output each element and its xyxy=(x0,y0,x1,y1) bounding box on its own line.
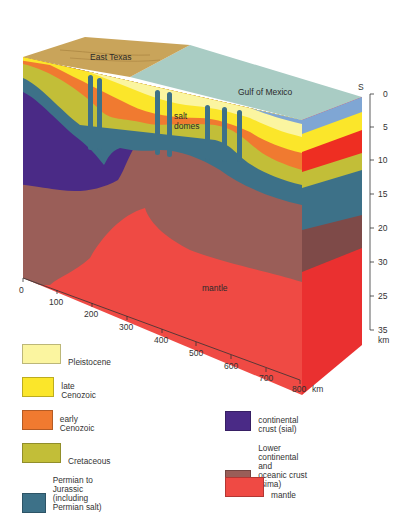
distance-tick: 400 xyxy=(154,335,168,345)
distance-tick: 500 xyxy=(189,348,203,358)
depth-tick: 35 xyxy=(378,325,388,335)
distance-tick: 200 xyxy=(84,309,98,319)
distance-unit: km xyxy=(312,384,323,394)
east-texas-label: East Texas xyxy=(90,52,131,62)
legend-label: Cretaceous xyxy=(68,457,110,466)
early-cenozoic-swatch xyxy=(22,410,53,430)
distance-tick: 700 xyxy=(259,373,273,383)
depth-tick: 5 xyxy=(383,122,388,132)
pleistocene-swatch xyxy=(22,344,61,364)
mantle-label: mantle xyxy=(202,283,228,293)
sial-swatch xyxy=(225,411,251,431)
depth-tick: 15 xyxy=(378,189,388,199)
distance-tick: 300 xyxy=(119,322,133,332)
legend-item-permian-jurassic: Permian to Jurassic (including Permian s… xyxy=(22,476,104,513)
salt-domes-label-line2: domes xyxy=(174,121,200,131)
legend-label: mantle xyxy=(271,491,296,500)
depth-axis xyxy=(370,94,374,330)
depth-tick: 30 xyxy=(378,257,388,267)
distance-tick: 0 xyxy=(19,285,24,295)
depth-tick: 0 xyxy=(383,89,388,99)
legend-label: Pleistocene xyxy=(68,358,111,367)
cretaceous-swatch xyxy=(22,443,61,463)
distance-tick: 100 xyxy=(49,297,63,307)
compass-south-label: S xyxy=(358,82,364,92)
legend-item-early-cenozoic: early Cenozoic xyxy=(22,410,103,430)
gulf-of-mexico-label: Gulf of Mexico xyxy=(238,87,293,97)
legend-label: early Cenozoic xyxy=(60,415,103,433)
depth-axis-ticks: 0 5 10 15 20 30 25 35 km xyxy=(378,89,389,345)
legend-label: Permian to Jurassic (including Permian s… xyxy=(53,476,104,512)
legend-item-pleistocene: Pleistocene xyxy=(22,344,111,364)
depth-unit: km xyxy=(378,335,389,345)
legend-item-sial: continental crust (sial) xyxy=(225,411,311,431)
depth-tick: 25 xyxy=(378,291,388,301)
legend-label: continental crust (sial) xyxy=(258,416,311,434)
right-face xyxy=(302,97,362,395)
salt-domes-label-line1: salt xyxy=(174,111,188,121)
distance-tick: 600 xyxy=(224,361,238,371)
depth-tick: 10 xyxy=(378,155,388,165)
legend-item-late-cenozoic: late Cenozoic xyxy=(22,377,103,397)
depth-tick: 20 xyxy=(378,223,388,233)
legend-item-mantle: mantle xyxy=(225,477,296,497)
legend-label: late Cenozoic xyxy=(61,382,102,400)
legend-item-cretaceous: Cretaceous xyxy=(22,443,110,463)
mantle-swatch xyxy=(225,477,264,497)
late-cenozoic-swatch xyxy=(22,377,54,397)
permian-swatch xyxy=(22,493,46,513)
distance-tick: 800 xyxy=(292,384,306,394)
